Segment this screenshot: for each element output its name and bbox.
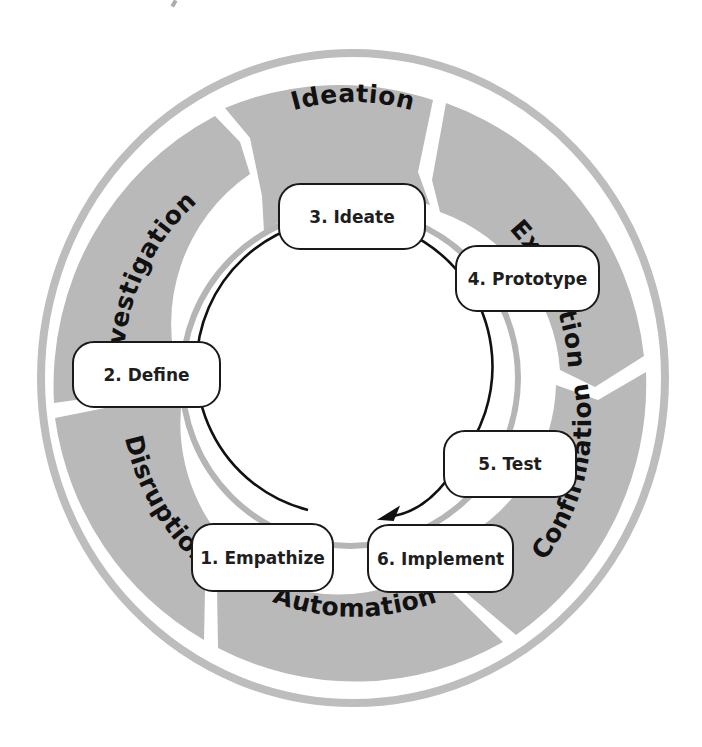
segment-disruption <box>55 392 230 640</box>
step-define: 2. Define <box>72 341 221 408</box>
arrow-head-icon <box>380 508 398 520</box>
step-test: 5. Test <box>443 430 577 498</box>
step-prototype: 4. Prototype <box>455 245 600 312</box>
step-implement: 6. Implement <box>367 524 514 593</box>
step-ideate: 3. Ideate <box>278 183 426 250</box>
step-empathize: 1. Empathize <box>191 523 334 592</box>
segment-confirmation <box>445 372 646 635</box>
